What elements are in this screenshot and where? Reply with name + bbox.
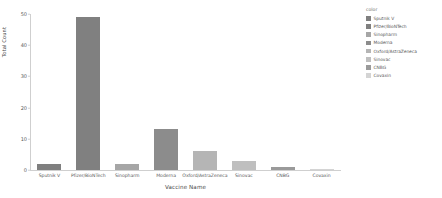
legend-label: Oxford/AstraZeneca: [374, 49, 417, 54]
legend-item[interactable]: Sinovac: [366, 56, 440, 64]
legend-item[interactable]: Pfizer/BioNTech: [366, 23, 440, 31]
legend-item[interactable]: Moderna: [366, 39, 440, 47]
legend-label: Sinovac: [374, 57, 391, 62]
x-tick-label: Sinovac: [235, 173, 253, 178]
legend-item[interactable]: CNBG: [366, 64, 440, 72]
legend-label: Sinopharm: [374, 32, 397, 37]
y-tick-label: 30: [21, 73, 27, 79]
x-tick-label: Covaxin: [313, 173, 331, 178]
legend-swatch-icon: [366, 41, 371, 46]
plot-area: 01020304050 Sputnik VPfizer/BioNTechSino…: [30, 14, 341, 170]
legend-swatch-icon: [366, 65, 371, 70]
x-tick-label: Oxford/AstraZeneca: [182, 173, 227, 178]
bar[interactable]: [76, 17, 100, 170]
legend-item[interactable]: Oxford/AstraZeneca: [366, 47, 440, 55]
bar[interactable]: [310, 169, 334, 170]
legend-item[interactable]: Sputnik V: [366, 15, 440, 23]
bar[interactable]: [115, 164, 139, 170]
x-tick-label: Moderna: [156, 173, 176, 178]
x-tick-label: Pfizer/BioNTech: [71, 173, 106, 178]
legend-label: CNBG: [374, 65, 387, 70]
legend-swatch-icon: [366, 73, 371, 78]
x-tick-label: Sputnik V: [39, 173, 61, 178]
legend-swatch-icon: [366, 49, 371, 54]
bar[interactable]: [37, 164, 61, 170]
y-tick-label: 10: [21, 136, 27, 142]
legend-item[interactable]: Covaxin: [366, 72, 440, 80]
x-tick-label: CNBG: [276, 173, 289, 178]
legend-item[interactable]: Sinopharm: [366, 31, 440, 39]
legend-title: color: [366, 7, 440, 12]
legend-label: Sputnik V: [374, 16, 395, 21]
legend-label: Pfizer/BioNTech: [374, 24, 407, 29]
legend-items: Sputnik VPfizer/BioNTechSinopharmModerna…: [366, 15, 440, 80]
bar[interactable]: [232, 161, 256, 170]
bar-series: [30, 14, 341, 170]
y-tick-label: 50: [21, 11, 27, 17]
bar[interactable]: [193, 151, 217, 170]
legend-swatch-icon: [366, 57, 371, 62]
y-tick-label: 40: [21, 42, 27, 48]
legend-swatch-icon: [366, 24, 371, 29]
legend: color Sputnik VPfizer/BioNTechSinopharmM…: [366, 7, 440, 80]
bar[interactable]: [271, 167, 295, 170]
x-tick-label: Sinopharm: [115, 173, 139, 178]
y-axis-title: Total Count: [1, 12, 13, 72]
y-tick-label: 20: [21, 105, 27, 111]
bar-chart: Total Count 01020304050 Sputnik VPfizer/…: [0, 0, 442, 198]
bar[interactable]: [154, 129, 178, 170]
legend-label: Moderna: [374, 40, 393, 45]
legend-swatch-icon: [366, 16, 371, 21]
x-axis-title: Vaccine Name: [30, 184, 341, 190]
legend-swatch-icon: [366, 32, 371, 37]
legend-label: Covaxin: [374, 73, 391, 78]
